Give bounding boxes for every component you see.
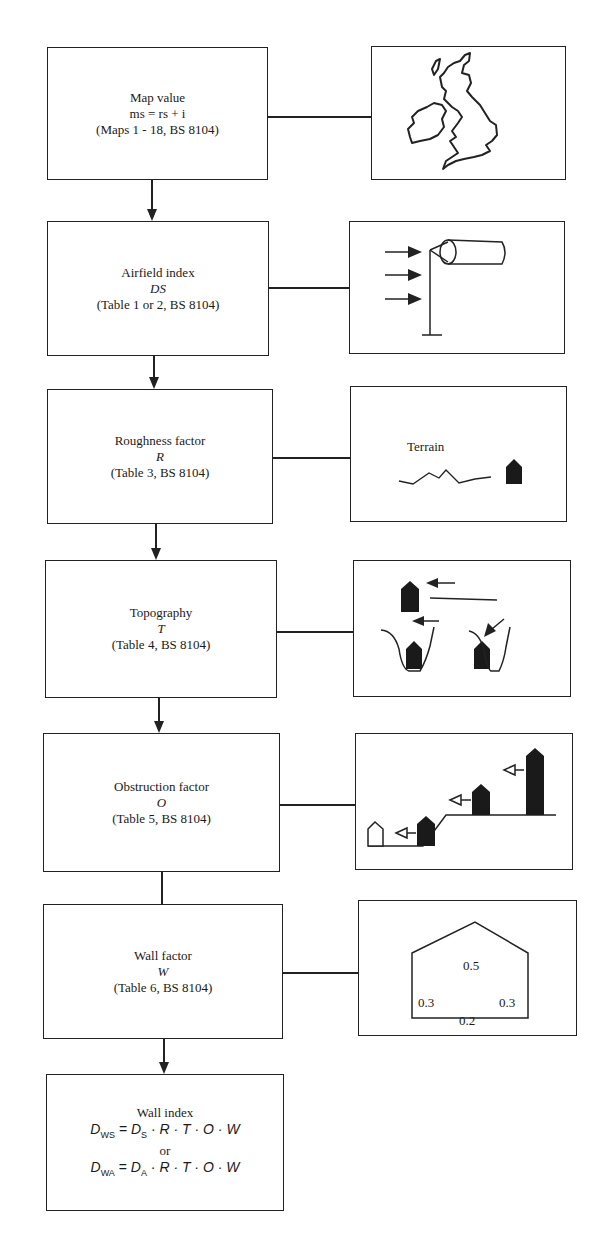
- formula-lhs: D: [90, 1121, 100, 1137]
- house-icon: [406, 641, 422, 669]
- step-title: Wall factor: [134, 948, 192, 964]
- step-symbol: T: [157, 621, 164, 637]
- step-reference: (Maps 1 - 18, BS 8104): [96, 122, 219, 138]
- step-title: Airfield index: [121, 265, 194, 281]
- illustration-terrain: Terrain: [350, 386, 567, 522]
- illustration-topography: [353, 560, 571, 697]
- formula-lhs: D: [91, 1159, 101, 1175]
- wall-value-right: 0.3: [499, 995, 515, 1011]
- wind-arrows-icon: [408, 246, 422, 305]
- illustration-obstruction: [355, 733, 573, 870]
- step-roughness-factor: Roughness factor R (Table 3, BS 8104): [47, 389, 273, 524]
- step-symbol: DS: [150, 281, 166, 297]
- connector-line: [163, 1039, 165, 1063]
- step-symbol: R: [156, 449, 164, 465]
- arrow-down-icon: [154, 721, 164, 733]
- result-or: or: [160, 1143, 171, 1159]
- result-formula-ws: DWS = DS · R · T · O · W: [90, 1121, 239, 1143]
- step-title: Topography: [130, 605, 193, 621]
- arrow-down-icon: [159, 1062, 169, 1074]
- formula-lhs-sub: WA: [101, 1167, 115, 1177]
- connector-line: [273, 457, 350, 459]
- uk-map-icon: [372, 47, 567, 181]
- house-icon: [506, 459, 522, 484]
- connector-line: [268, 116, 371, 118]
- step-reference: (Table 4, BS 8104): [112, 637, 211, 653]
- step-formula: ms = rs + i: [130, 106, 186, 122]
- step-reference: (Table 6, BS 8104): [114, 980, 213, 996]
- illustration-uk-map: [371, 46, 566, 180]
- connector-line: [277, 631, 353, 633]
- connector-line: [161, 872, 163, 904]
- result-title: Wall index: [137, 1105, 193, 1121]
- wall-value-roof: 0.5: [463, 958, 479, 974]
- step-wall-factor: Wall factor W (Table 6, BS 8104): [43, 904, 283, 1039]
- illustration-windsock: [349, 221, 565, 354]
- house-icon: [401, 581, 419, 612]
- wind-arrows-icon: [412, 578, 496, 637]
- connector-line: [155, 524, 157, 549]
- illustration-wall-factor: 0.5 0.3 0.3 0.2: [358, 900, 577, 1036]
- tower-icon: [526, 748, 544, 815]
- formula-lhs-sub: WS: [100, 1130, 115, 1140]
- step-symbol: W: [158, 964, 169, 980]
- connector-line: [269, 287, 349, 289]
- formula-rhs-d: D: [131, 1159, 141, 1175]
- arrow-down-icon: [149, 377, 159, 389]
- connector-line: [151, 180, 153, 210]
- wall-value-left: 0.3: [418, 995, 434, 1011]
- terrain-icon: [351, 387, 568, 523]
- house-outline-icon: [368, 822, 383, 846]
- formula-rhs-sub: A: [141, 1167, 147, 1177]
- formula-rhs-d: D: [131, 1121, 141, 1137]
- result-wall-index: Wall index DWS = DS · R · T · O · W or D…: [46, 1074, 284, 1211]
- formula-rest: R · T · O · W: [160, 1121, 240, 1137]
- result-formula-wa: DWA = DA · R · T · O · W: [91, 1159, 240, 1181]
- step-reference: (Table 1 or 2, BS 8104): [97, 297, 220, 313]
- step-airfield-index: Airfield index DS (Table 1 or 2, BS 8104…: [47, 221, 269, 356]
- step-reference: (Table 3, BS 8104): [111, 465, 210, 481]
- step-topography: Topography T (Table 4, BS 8104): [45, 560, 277, 698]
- step-reference: (Table 5, BS 8104): [112, 811, 211, 827]
- formula-rhs-sub: S: [141, 1130, 147, 1140]
- wall-value-bottom: 0.2: [459, 1013, 475, 1029]
- connector-line: [153, 356, 155, 378]
- house-icon: [417, 816, 435, 846]
- step-obstruction-factor: Obstruction factor O (Table 5, BS 8104): [43, 733, 280, 872]
- connector-line: [283, 972, 358, 974]
- obstruction-icon: [356, 734, 574, 871]
- arrow-down-icon: [147, 209, 157, 221]
- step-title: Map value: [130, 90, 185, 106]
- step-title: Roughness factor: [115, 433, 206, 449]
- connector-line: [280, 804, 355, 806]
- topography-icon: [354, 561, 572, 698]
- step-map-value: Map value ms = rs + i (Maps 1 - 18, BS 8…: [47, 47, 268, 180]
- arrow-down-icon: [151, 548, 161, 560]
- step-symbol: O: [157, 795, 166, 811]
- windsock-icon: [350, 222, 566, 355]
- formula-rest: R · T · O · W: [159, 1159, 239, 1175]
- connector-line: [158, 698, 160, 722]
- step-title: Obstruction factor: [114, 779, 209, 795]
- house-icon: [472, 784, 490, 815]
